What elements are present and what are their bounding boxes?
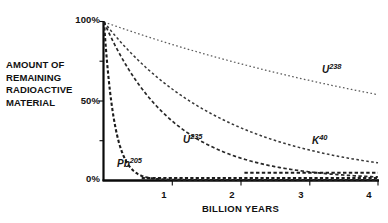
series-label-pb205-element: Pb (117, 158, 130, 169)
series-label-u235-mass: 235 (190, 132, 202, 141)
plot-area (0, 0, 388, 223)
curve-u-235 (104, 22, 378, 177)
series-label-pb205-mass: 205 (130, 156, 142, 165)
radioactive-decay-chart: AMOUNT OF REMAINING RADIOACTIVE MATERIAL… (0, 0, 388, 223)
series-label-k40: K40 (312, 133, 327, 146)
series-label-k40-mass: 40 (319, 133, 327, 142)
series-label-u238: U238 (322, 62, 341, 75)
curve-u-238 (104, 22, 378, 95)
series-label-u235: U235 (183, 132, 202, 145)
decay-curves-group (104, 22, 378, 180)
series-label-u238-mass: 238 (329, 62, 341, 71)
series-label-pb205: Pb205 (117, 156, 142, 169)
